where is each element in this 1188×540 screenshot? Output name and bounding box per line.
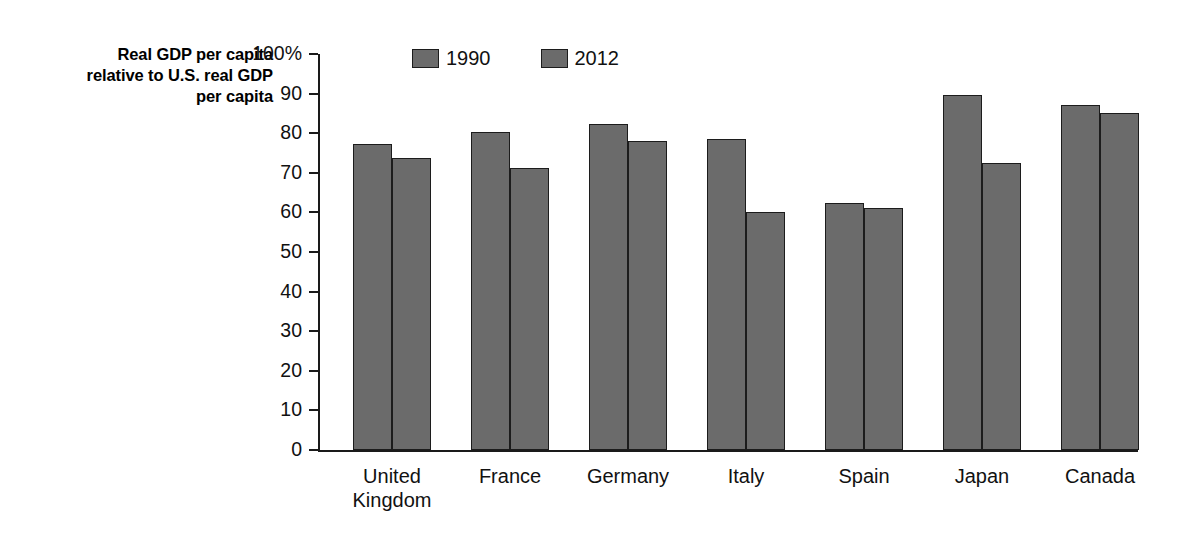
bar-germany-1990 — [589, 124, 628, 450]
bar-germany-2012 — [628, 141, 667, 450]
bar-canada-2012 — [1100, 113, 1139, 450]
bar-japan-2012 — [982, 163, 1021, 450]
bar-italy-1990 — [707, 139, 746, 450]
y-tick-mark-50 — [309, 251, 318, 253]
y-tick-mark-70 — [309, 172, 318, 174]
y-tick-label-90: 90 — [222, 84, 302, 104]
y-tick-mark-10 — [309, 409, 318, 411]
bar-spain-1990 — [825, 203, 864, 451]
bar-france-2012 — [510, 168, 549, 450]
y-tick-label-0: 0 — [222, 440, 302, 460]
y-tick-label-50: 50 — [222, 242, 302, 262]
x-axis-line — [318, 450, 1138, 452]
y-tick-label-40: 40 — [222, 282, 302, 302]
y-tick-mark-100 — [309, 53, 318, 55]
bar-italy-2012 — [746, 212, 785, 450]
y-tick-label-30: 30 — [222, 321, 302, 341]
y-tick-mark-20 — [309, 370, 318, 372]
bar-japan-1990 — [943, 95, 982, 450]
bar-united-kingdom-1990 — [353, 144, 392, 450]
bar-spain-2012 — [864, 208, 903, 450]
y-tick-label-20: 20 — [222, 361, 302, 381]
y-tick-mark-80 — [309, 132, 318, 134]
y-tick-label-70: 70 — [222, 163, 302, 183]
bar-france-1990 — [471, 132, 510, 450]
y-tick-mark-30 — [309, 330, 318, 332]
bar-united-kingdom-2012 — [392, 158, 431, 450]
plot-area — [318, 54, 1138, 452]
y-tick-label-80: 80 — [222, 123, 302, 143]
y-axis-line — [318, 54, 320, 452]
bar-canada-1990 — [1061, 105, 1100, 450]
y-tick-mark-40 — [309, 291, 318, 293]
x-category-label-canada: Canada — [1030, 464, 1170, 488]
y-tick-label-60: 60 — [222, 202, 302, 222]
chart-figure: Real GDP per capita relative to U.S. rea… — [0, 0, 1188, 540]
y-tick-mark-0 — [309, 449, 318, 451]
y-tick-mark-90 — [309, 93, 318, 95]
y-tick-label-10: 10 — [222, 400, 302, 420]
y-tick-label-100: 100% — [222, 44, 302, 64]
y-tick-mark-60 — [309, 211, 318, 213]
